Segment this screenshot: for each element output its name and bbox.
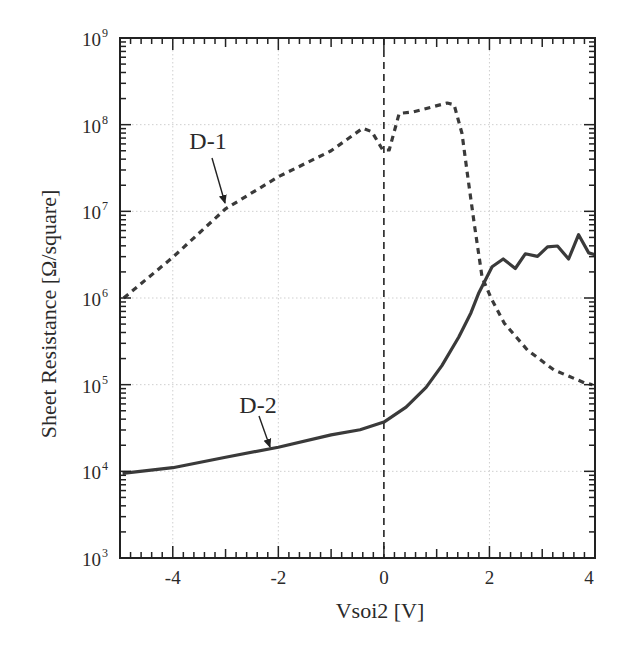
series-d-2 bbox=[123, 235, 595, 474]
y-tick-exponent: 5 bbox=[102, 373, 108, 387]
sheet-resistance-chart: -4-2024 103104105106107108109 Vsoi2 [V] … bbox=[0, 0, 624, 652]
x-tick-label: 2 bbox=[485, 567, 495, 588]
annotation-d1-arrow-icon bbox=[212, 158, 225, 203]
y-tick-label: 10 bbox=[82, 202, 101, 223]
x-tick-labels: -4-2024 bbox=[165, 567, 594, 588]
y-tick-label: 10 bbox=[82, 29, 101, 50]
y-tick-exponent: 8 bbox=[102, 113, 108, 127]
y-tick-label: 10 bbox=[82, 376, 101, 397]
y-tick-labels: 103104105106107108109 bbox=[82, 26, 108, 570]
gridlines bbox=[120, 38, 595, 558]
y-axis-title: Sheet Resistance [Ω/square] bbox=[36, 190, 61, 439]
plot-series bbox=[123, 103, 595, 473]
annotation-d2-label: D-2 bbox=[239, 392, 276, 418]
x-tick-label: 0 bbox=[379, 567, 389, 588]
y-tick-exponent: 4 bbox=[102, 459, 108, 473]
y-tick-label: 10 bbox=[82, 462, 101, 483]
x-axis-title: Vsoi2 [V] bbox=[336, 598, 425, 623]
x-tick-label: -2 bbox=[270, 567, 286, 588]
y-tick-exponent: 9 bbox=[102, 26, 108, 40]
y-tick-label: 10 bbox=[82, 116, 101, 137]
x-tick-label: 4 bbox=[584, 567, 594, 588]
y-tick-label: 10 bbox=[82, 549, 101, 570]
y-tick-exponent: 7 bbox=[102, 199, 108, 213]
y-tick-exponent: 6 bbox=[102, 286, 108, 300]
x-tick-label: -4 bbox=[165, 567, 181, 588]
annotation-d2-arrow-icon bbox=[259, 416, 270, 447]
annotation-d1-label: D-1 bbox=[189, 128, 226, 154]
y-tick-label: 10 bbox=[82, 289, 101, 310]
y-tick-exponent: 3 bbox=[102, 546, 108, 560]
